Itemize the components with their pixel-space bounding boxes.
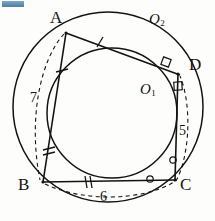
dashed-arc-AB — [35, 34, 64, 180]
right-angle-on-AD — [161, 57, 171, 67]
quadrilateral-sides — [43, 33, 180, 182]
length-label-AB: 7 — [30, 91, 37, 105]
vertex-label-A: A — [50, 9, 62, 26]
vertex-label-B: B — [18, 176, 29, 193]
vertex-dot-D — [176, 72, 179, 75]
center-letter-O1: O — [140, 81, 151, 97]
vertex-dot-A — [64, 31, 67, 34]
vertex-dot-B — [41, 180, 44, 183]
circle-center-label-O2: O2 — [149, 12, 165, 28]
side-BC — [43, 180, 175, 182]
center-letter-O2: O — [149, 11, 160, 27]
geometry-figure: A B C D O2 O1 7 5 6 — [0, 0, 215, 221]
circle-mark-on-BC — [147, 176, 153, 182]
circle-center-label-O1: O1 — [140, 82, 156, 98]
length-label-BC: 6 — [100, 190, 107, 204]
length-label-CD: 5 — [179, 124, 186, 138]
vertex-label-C: C — [180, 176, 191, 193]
side-AB — [43, 33, 66, 182]
center-subscript-O1: 1 — [151, 88, 156, 98]
dashed-chord-group — [35, 34, 188, 197]
vertex-label-D: D — [189, 56, 201, 73]
center-subscript-O2: 2 — [160, 18, 165, 28]
vertex-dot-C — [173, 178, 176, 181]
tick-on-AB-lower — [43, 147, 55, 155]
